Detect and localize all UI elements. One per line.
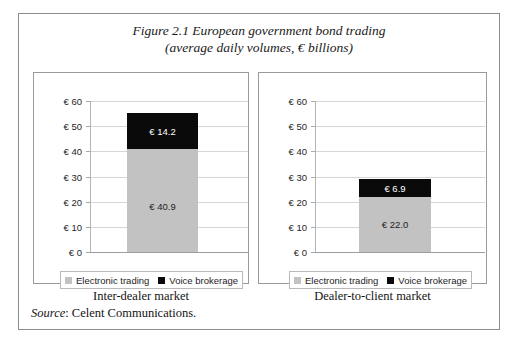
gridline-40 (315, 151, 485, 152)
y-tick-30 (311, 177, 315, 178)
legend-label-electronic: Electronic trading (305, 275, 378, 286)
x-axis-line (90, 252, 248, 253)
legend-item-electronic[interactable]: Electronic trading (294, 275, 378, 286)
y-axis-label-30: € 30 (34, 172, 82, 183)
legend-left: Electronic trading Voice brokerage (60, 271, 243, 289)
chart-panel-inter-dealer: € 60 € 50 € 40 € 30 € 20 € 10 € 0 € 40.9… (33, 72, 249, 284)
gridline-60 (315, 101, 485, 102)
y-axis-label-20: € 20 (34, 197, 82, 208)
legend-item-electronic[interactable]: Electronic trading (65, 275, 149, 286)
legend-label-electronic: Electronic trading (76, 275, 149, 286)
y-axis-label-20: € 20 (259, 197, 307, 208)
bar-label-voice: € 6.9 (359, 183, 431, 194)
figure-frame: Figure 2.1 European government bond trad… (18, 13, 500, 330)
y-axis-label-0: € 0 (259, 247, 307, 258)
y-axis-label-50: € 50 (34, 121, 82, 132)
chart-panel-dealer-to-client: € 60 € 50 € 40 € 30 € 20 € 10 € 0 € 22.0… (258, 72, 487, 284)
caption-dealer-to-client: Dealer-to-client market (258, 289, 487, 304)
figure-title-line-2: (average daily volumes, € billions) (19, 39, 499, 56)
y-tick-20 (86, 202, 90, 203)
y-axis-label-60: € 60 (34, 96, 82, 107)
y-tick-50 (311, 126, 315, 127)
legend-label-voice: Voice brokerage (169, 275, 238, 286)
y-axis-line (315, 101, 316, 253)
y-axis-label-60: € 60 (259, 96, 307, 107)
legend-swatch-electronic-icon (65, 277, 72, 284)
y-tick-10 (311, 227, 315, 228)
legend-swatch-voice-icon (158, 277, 165, 284)
y-tick-0 (86, 252, 90, 253)
y-tick-20 (311, 202, 315, 203)
bar-label-voice: € 14.2 (127, 126, 198, 137)
figure-title: Figure 2.1 European government bond trad… (19, 22, 499, 56)
x-axis-line (315, 252, 485, 253)
y-axis-label-10: € 10 (34, 222, 82, 233)
y-tick-60 (311, 101, 315, 102)
bar-label-electronic: € 22.0 (359, 219, 431, 230)
source-text: : Celent Communications. (65, 306, 196, 320)
gridline-50 (315, 126, 485, 127)
y-axis-label-40: € 40 (259, 146, 307, 157)
gridline-30 (315, 177, 485, 178)
legend-right: Electronic trading Voice brokerage (289, 271, 472, 289)
y-axis-line (90, 101, 91, 253)
y-axis-label-10: € 10 (259, 222, 307, 233)
plot-area-left: € 60 € 50 € 40 € 30 € 20 € 10 € 0 € 40.9… (34, 73, 248, 283)
plot-area-right: € 60 € 50 € 40 € 30 € 20 € 10 € 0 € 22.0… (259, 73, 486, 283)
y-axis-label-40: € 40 (34, 146, 82, 157)
legend-swatch-voice-icon (387, 277, 394, 284)
legend-label-voice: Voice brokerage (398, 275, 467, 286)
figure-title-line-1: Figure 2.1 European government bond trad… (19, 22, 499, 39)
y-axis-label-0: € 0 (34, 247, 82, 258)
y-tick-50 (86, 126, 90, 127)
y-tick-40 (86, 151, 90, 152)
legend-swatch-electronic-icon (294, 277, 301, 284)
caption-inter-dealer: Inter-dealer market (33, 289, 249, 304)
y-tick-30 (86, 177, 90, 178)
y-tick-60 (86, 101, 90, 102)
y-axis-label-30: € 30 (259, 172, 307, 183)
y-tick-0 (311, 252, 315, 253)
bar-label-electronic: € 40.9 (127, 201, 198, 212)
source-label: Source (31, 306, 65, 320)
legend-item-voice[interactable]: Voice brokerage (158, 275, 238, 286)
source-line: Source: Celent Communications. (31, 306, 196, 321)
y-axis-label-50: € 50 (259, 121, 307, 132)
y-tick-10 (86, 227, 90, 228)
gridline-60 (90, 101, 248, 102)
legend-item-voice[interactable]: Voice brokerage (387, 275, 467, 286)
y-tick-40 (311, 151, 315, 152)
